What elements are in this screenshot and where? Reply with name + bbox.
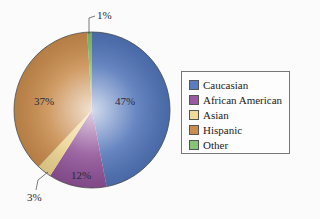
legend-item-asian: Asian	[189, 107, 289, 122]
label-other: 1%	[97, 9, 112, 21]
legend-item-hispanic: Hispanic	[189, 122, 289, 137]
legend-label: Asian	[203, 109, 229, 121]
legend-item-african-american: African American	[189, 92, 289, 107]
swatch-icon	[189, 125, 199, 135]
label-asian: 3%	[27, 191, 42, 203]
legend-label: Other	[203, 139, 228, 151]
label-caucasian: 47%	[115, 95, 135, 107]
legend-label: African American	[203, 94, 282, 106]
swatch-icon	[189, 140, 199, 150]
swatch-icon	[189, 95, 199, 105]
swatch-icon	[189, 110, 199, 120]
label-hispanic: 37%	[34, 95, 54, 107]
legend-item-caucasian: Caucasian	[189, 77, 289, 92]
legend-label: Caucasian	[203, 79, 248, 91]
legend-label: Hispanic	[203, 124, 242, 136]
label-african-american: 12%	[71, 169, 91, 181]
swatch-icon	[189, 80, 199, 90]
legend: Caucasian African American Asian Hispani…	[181, 71, 290, 154]
legend-item-other: Other	[189, 137, 289, 152]
